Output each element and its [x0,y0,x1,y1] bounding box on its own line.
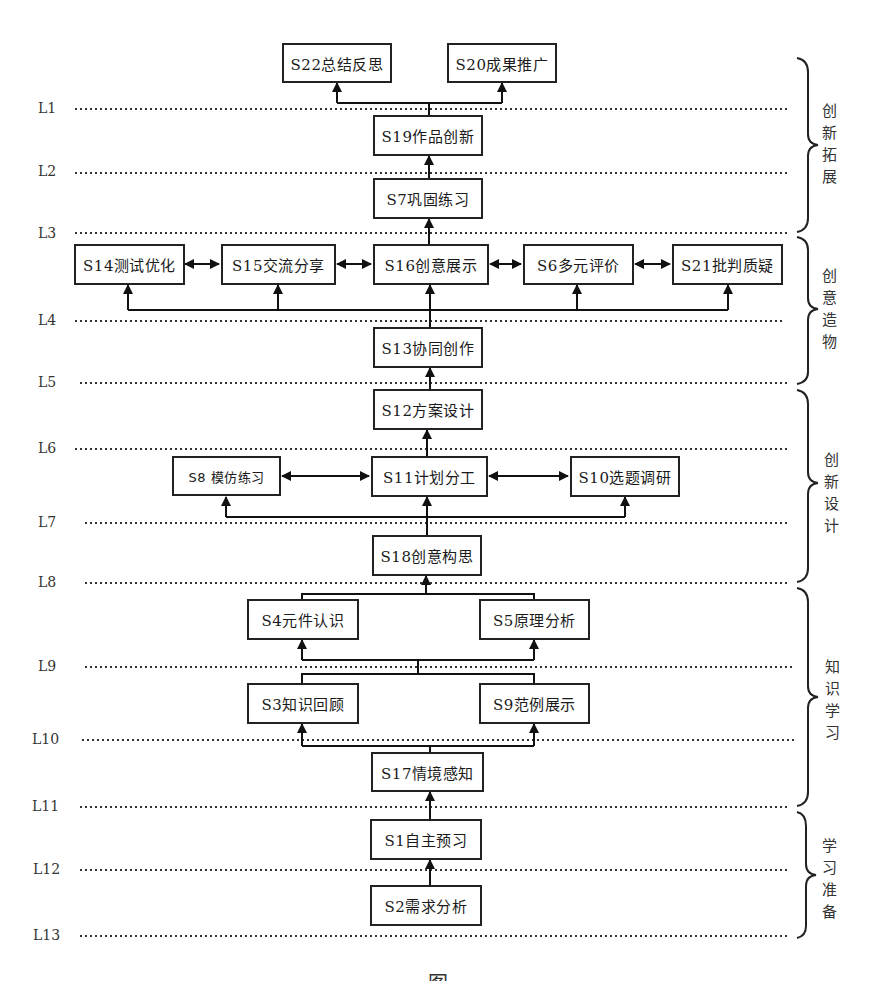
level-label-L13: L13 [33,927,60,943]
level-label-L1: L1 [38,100,56,116]
phase-label-innovation-expansion: 创 新 拓 展 [820,100,838,188]
phase-char: 习 [820,857,838,879]
level-label-L5: L5 [38,374,56,390]
brace-knowledge-learning [797,588,818,806]
node-s20-result-promotion[interactable]: S20成果推广 [447,43,557,83]
phase-char: 学 [820,835,838,857]
node-s18-creative-conception[interactable]: S18创意构思 [372,535,482,576]
level-label-L2: L2 [38,163,56,179]
node-s12-plan-design[interactable]: S12方案设计 [373,389,483,430]
brace-learning-preparation [797,812,816,938]
node-s8-imitation-practice[interactable]: S8 模仿练习 [172,456,281,496]
node-s22-summary-reflection[interactable]: S22总结反思 [282,43,392,83]
node-s4-component-recognition[interactable]: S4元件认识 [247,599,359,640]
phase-char: 设 [822,493,840,515]
phase-char: 知 [823,656,841,678]
node-s2-needs-analysis[interactable]: S2需求分析 [370,885,482,926]
phase-char: 创 [822,449,840,471]
phase-label-learning-preparation: 学 习 准 备 [820,835,838,923]
node-s7-consolidation-practice[interactable]: S7巩固练习 [373,178,483,219]
phase-char: 学 [823,700,841,722]
level-lines [75,109,795,936]
node-s11-task-division[interactable]: S11计划分工 [371,456,488,497]
phase-char: 物 [820,331,838,353]
node-s1-self-preview[interactable]: S1自主预习 [370,819,482,860]
level-label-L4: L4 [38,312,56,328]
phase-char: 备 [820,901,838,923]
node-s15-exchange-share[interactable]: S15交流分享 [221,244,336,285]
node-s17-situation-perception[interactable]: S17情境感知 [371,752,484,792]
phase-char: 习 [823,722,841,744]
phase-char: 展 [820,166,838,188]
node-s10-topic-research[interactable]: S10选题调研 [570,456,680,497]
level-label-L7: L7 [38,514,56,530]
phase-char: 创 [820,265,838,287]
node-s13-collaborative-creation[interactable]: S13协同创作 [373,327,483,368]
level-label-L11: L11 [32,798,59,814]
level-label-L6: L6 [38,440,56,456]
level-label-L10: L10 [32,731,59,747]
phase-braces [797,58,818,938]
node-s6-diverse-evaluation[interactable]: S6多元评价 [523,244,634,285]
figure-caption: 图 [0,968,879,981]
phase-char: 造 [820,309,838,331]
level-label-L9: L9 [38,658,56,674]
level-label-L8: L8 [38,574,56,590]
phase-char: 新 [822,471,840,493]
node-s3-knowledge-review[interactable]: S3知识回顾 [247,683,359,724]
node-s5-principle-analysis[interactable]: S5原理分析 [479,599,590,640]
brace-innovation-expansion [797,58,818,232]
node-s19-work-innovation[interactable]: S19作品创新 [373,115,483,156]
phase-char: 意 [820,287,838,309]
diagram-canvas: L1 L2 L3 L4 L5 L6 L7 L8 L9 L10 L11 L12 L… [0,0,879,981]
brace-innovative-design [797,390,818,582]
node-s21-critical-questioning[interactable]: S21批判质疑 [672,244,783,285]
phase-label-creative-making: 创 意 造 物 [820,265,838,353]
level-label-L3: L3 [38,225,56,241]
phase-char: 识 [823,678,841,700]
phase-char: 拓 [820,144,838,166]
phase-label-innovative-design: 创 新 设 计 [822,449,840,537]
node-s16-creative-display[interactable]: S16创意展示 [373,244,489,285]
phase-char: 计 [822,515,840,537]
node-s14-test-optimize[interactable]: S14测试优化 [74,244,185,285]
phase-char: 准 [820,879,838,901]
phase-char: 创 [820,100,838,122]
phase-char: 新 [820,122,838,144]
level-label-L12: L12 [33,861,60,877]
phase-label-knowledge-learning: 知 识 学 习 [823,656,841,744]
brace-creative-making [797,237,818,384]
node-s9-example-display[interactable]: S9范例展示 [479,683,590,724]
